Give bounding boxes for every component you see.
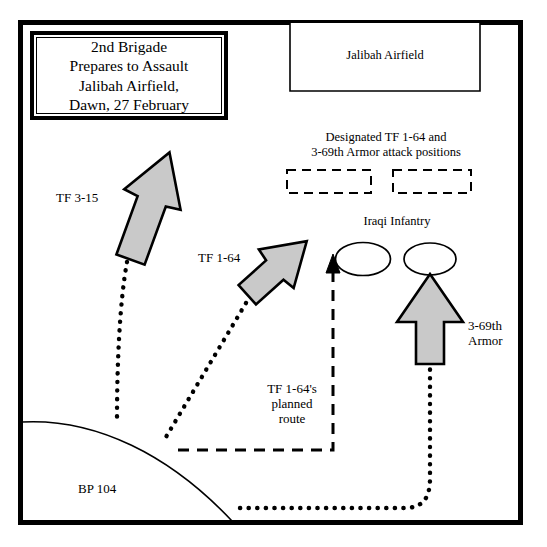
- unit-label-tf-3-15: TF 3-15: [56, 190, 132, 205]
- airfield-box-label: Jalibah Airfield: [290, 48, 480, 63]
- bp-104-boundary-curve: [22, 422, 232, 521]
- figure-title-box: 2nd Brigade Prepares to Assault Jalibah …: [30, 31, 228, 120]
- figure-title-box-inner: 2nd Brigade Prepares to Assault Jalibah …: [36, 37, 222, 114]
- unit-label-3-69th-armor: 3-69th Armor: [468, 318, 530, 348]
- tf-3-15-route-dotted: [117, 262, 127, 420]
- planned-route-label: TF 1-64's planned route: [248, 381, 336, 426]
- arrow-tf-3-15: [102, 142, 197, 270]
- attack-positions-caption: Designated TF 1-64 and 3-69th Armor atta…: [278, 130, 494, 159]
- arrow-3-69th-armor: [397, 274, 463, 364]
- tactical-map-figure: 2nd Brigade Prepares to Assault Jalibah …: [0, 0, 547, 547]
- attack-position-box-right: [393, 170, 471, 193]
- arrow-tf-1-64: [230, 222, 324, 314]
- iraqi-infantry-oval-left: [336, 243, 391, 276]
- unit-label-iraqi-infantry: Iraqi Infantry: [337, 214, 457, 229]
- tf-1-64-route-dotted: [166, 303, 246, 437]
- attack-position-box-left: [287, 170, 371, 193]
- figure-title-text: 2nd Brigade Prepares to Assault Jalibah …: [69, 37, 189, 115]
- iraqi-infantry-oval-right: [404, 243, 456, 275]
- battle-position-label: BP 104: [78, 481, 158, 496]
- unit-label-tf-1-64: TF 1-64: [198, 250, 274, 265]
